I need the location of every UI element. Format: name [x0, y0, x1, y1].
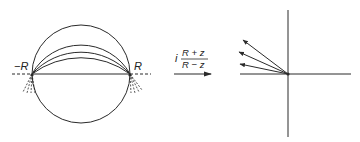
arc-3 [32, 58, 130, 74]
right-fan-dashes [130, 74, 142, 93]
formula-denominator: R − z [182, 59, 205, 70]
formula-prefix-i: i [175, 52, 178, 64]
arc-1 [32, 45, 130, 74]
label-R: R [134, 60, 142, 72]
conformal-map-diagram: −R R i R + z R − z [0, 0, 360, 142]
image-plane [239, 10, 351, 137]
formula-numerator: R + z [182, 47, 205, 58]
point-R [128, 73, 131, 76]
origin-point [286, 72, 289, 75]
arc-2 [32, 52, 130, 74]
point-minus-R [30, 73, 33, 76]
mapping-formula: i R + z R − z [175, 47, 208, 70]
label-minus-R: −R [14, 60, 28, 72]
